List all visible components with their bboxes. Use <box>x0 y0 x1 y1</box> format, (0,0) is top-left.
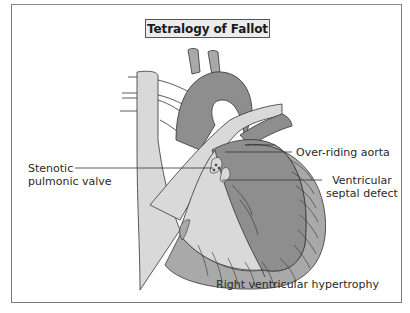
pulmonary-vessel-lines <box>120 77 138 111</box>
label-ventricular-septal-defect: Ventricular septal defect <box>326 174 398 200</box>
label-right-ventricular-hypertrophy: Right ventricular hypertrophy <box>216 278 379 291</box>
label-line: Stenotic <box>28 162 112 175</box>
label-stenotic-pulmonic-valve: Stenotic pulmonic valve <box>28 162 112 188</box>
aortic-branch <box>188 49 200 75</box>
label-over-riding-aorta: Over-riding aorta <box>296 146 390 159</box>
label-line: pulmonic valve <box>28 175 112 188</box>
label-line: Ventricular <box>326 174 398 187</box>
aortic-branch <box>208 51 220 76</box>
label-line: septal defect <box>326 187 398 200</box>
